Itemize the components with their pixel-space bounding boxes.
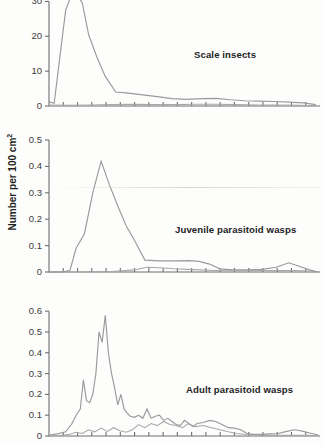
y-tick-label: 0.5	[29, 134, 42, 145]
plot-area-juvenile-parasitoid-wasps: 00.10.20.30.40.5	[0, 128, 324, 285]
plot-area-scale-insects: 0102030	[0, 0, 324, 118]
panel-juvenile-parasitoid-wasps: 00.10.20.30.40.5	[0, 128, 324, 285]
y-tick-label: 0	[37, 100, 42, 111]
y-tick-label: 0.2	[29, 213, 42, 224]
series-line-juvenile-wasps-primary	[49, 161, 318, 272]
panel-label-juvenile-parasitoid-wasps: Juvenile parasitoid wasps	[175, 224, 296, 235]
y-tick-label: 10	[31, 65, 42, 76]
y-tick-label: 0.4	[29, 160, 42, 171]
y-tick-label: 30	[31, 0, 42, 6]
plot-area-adult-parasitoid-wasps: 00.10.20.30.40.50.6	[0, 295, 324, 445]
axis-spine	[49, 311, 320, 436]
y-tick-label: 0.1	[29, 409, 42, 420]
y-tick-label: 0.6	[29, 305, 42, 316]
panel-adult-parasitoid-wasps: 00.10.20.30.40.50.6	[0, 295, 324, 445]
panel-label-adult-parasitoid-wasps: Adult parasitoid wasps	[186, 384, 293, 395]
y-tick-label: 0.5	[29, 326, 42, 337]
axis-spine	[49, 1, 320, 106]
panel-label-scale-insects: Scale insects	[194, 49, 256, 60]
y-tick-label: 0.3	[29, 368, 42, 379]
series-line-adult-wasps-primary	[49, 315, 318, 435]
series-line-scale-insects-secondary	[49, 104, 316, 105]
y-tick-label: 0.1	[29, 240, 42, 251]
y-tick-label: 0.4	[29, 347, 42, 358]
series-line-scale-insects-primary	[49, 0, 316, 105]
y-tick-label: 0.2	[29, 388, 42, 399]
y-tick-label: 20	[31, 30, 42, 41]
three-panel-abundance-figure: Number per 100 cm2 0102030 Scale insects…	[0, 0, 324, 445]
y-tick-label: 0	[37, 266, 42, 277]
y-tick-label: 0.3	[29, 187, 42, 198]
y-tick-label: 0	[37, 430, 42, 441]
panel-scale-insects: 0102030	[0, 0, 324, 118]
